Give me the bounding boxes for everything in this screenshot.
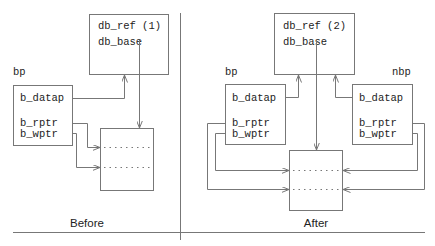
after-bp-label: bp xyxy=(225,66,238,78)
after-db-ref-label: db_ref (2) xyxy=(283,20,346,32)
after-nbp-b-datap-field: b_datap xyxy=(359,92,403,104)
after-dblk-box: db_ref (2) db_base xyxy=(275,14,355,75)
before-bp-mblk-box: b_datap b_rptr b_wptr xyxy=(14,86,73,146)
after-nbp-b-wptr-field: b_wptr xyxy=(359,128,397,140)
before-panel: db_ref (1) db_base bp b_datap b_rptr b_w… xyxy=(13,15,169,230)
after-bp-b-datap-field: b_datap xyxy=(232,92,276,104)
after-db-base-label: db_base xyxy=(283,36,327,48)
before-bp-label: bp xyxy=(13,66,26,78)
before-b-wptr-arrow xyxy=(73,134,101,168)
after-bp-b-datap-arrow xyxy=(286,75,299,98)
after-bp-b-wptr-field: b_wptr xyxy=(232,128,270,140)
after-data-buffer xyxy=(290,151,343,211)
before-b-datap-field: b_datap xyxy=(20,92,64,104)
before-b-wptr-field: b_wptr xyxy=(20,128,58,140)
before-db-base-label: db_base xyxy=(98,36,142,48)
before-dblk-box: db_ref (1) db_base xyxy=(90,15,169,75)
after-panel: db_ref (2) db_base bp b_datap b_rptr b_w… xyxy=(208,14,425,230)
before-caption: Before xyxy=(70,217,104,229)
before-b-datap-arrow xyxy=(73,75,125,99)
streams-dup-diagram: db_ref (1) db_base bp b_datap b_rptr b_w… xyxy=(0,0,435,246)
after-nbp-mblk-box: b_datap b_rptr b_wptr xyxy=(353,85,413,145)
before-data-buffer xyxy=(101,129,154,191)
after-caption: After xyxy=(304,217,328,229)
before-db-ref-label: db_ref (1) xyxy=(98,20,161,32)
after-nbp-b-datap-arrow xyxy=(336,75,353,98)
after-bp-mblk-box: b_datap b_rptr b_wptr xyxy=(226,85,286,145)
after-nbp-label: nbp xyxy=(392,66,411,78)
